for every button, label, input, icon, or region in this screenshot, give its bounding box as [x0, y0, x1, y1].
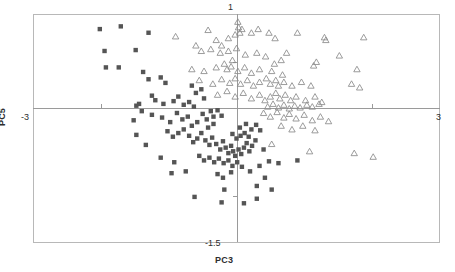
data-point-square [254, 123, 258, 127]
data-point-square [134, 133, 138, 137]
data-point-triangle [370, 154, 376, 160]
data-point-triangle [325, 118, 331, 124]
data-point-square [269, 187, 273, 191]
data-point-square [203, 138, 207, 142]
data-point-square [207, 143, 211, 147]
data-point-triangle [271, 61, 277, 67]
data-point-square [242, 131, 246, 135]
data-point-triangle [348, 81, 354, 87]
y-axis-tick-label-max: 1 [228, 2, 233, 12]
data-point-square [247, 149, 251, 153]
data-point-triangle [356, 84, 362, 90]
data-point-square [261, 147, 265, 151]
data-point-square [218, 147, 222, 151]
data-point-triangle [189, 66, 195, 72]
data-point-triangle [221, 61, 227, 67]
data-point-triangle [256, 79, 262, 85]
data-point-square [217, 156, 221, 160]
data-point-square [238, 125, 242, 129]
data-point-triangle [255, 26, 261, 32]
data-point-square [238, 134, 242, 138]
data-point-triangle [273, 77, 279, 83]
data-point-triangle [289, 83, 295, 89]
data-point-triangle [281, 79, 287, 85]
data-point-triangle [277, 95, 283, 101]
data-point-square [153, 98, 157, 102]
data-point-square [276, 161, 280, 165]
data-point-square [194, 91, 198, 95]
data-point-triangle [336, 53, 342, 59]
data-point-square [104, 65, 108, 69]
data-point-square [219, 114, 223, 118]
data-point-triangle [233, 45, 239, 51]
data-point-square [229, 170, 233, 174]
data-point-triangle [266, 30, 272, 36]
data-point-triangle [213, 64, 219, 70]
data-point-triangle [354, 66, 360, 72]
data-point-triangle [281, 102, 287, 108]
x-axis-tick-label-max: 3 [436, 112, 441, 122]
x-axis-tick-label-min: -3 [21, 112, 29, 122]
data-point-square [226, 158, 230, 162]
data-point-square [210, 135, 214, 139]
data-point-square [242, 201, 246, 205]
data-point-square [171, 135, 175, 139]
data-point-triangle [250, 83, 256, 89]
data-point-triangle [237, 81, 243, 87]
data-point-triangle [270, 101, 276, 107]
data-point-square [98, 27, 102, 31]
data-point-triangle [294, 30, 300, 36]
data-point-square [140, 109, 144, 113]
data-point-square [219, 200, 223, 204]
data-point-square [211, 114, 215, 118]
data-point-square [234, 136, 238, 140]
data-point-square [159, 75, 163, 79]
data-point-square [168, 120, 172, 124]
data-point-triangle [244, 77, 250, 83]
data-point-square [180, 117, 184, 121]
data-point-square [102, 49, 106, 53]
data-point-triangle [298, 79, 304, 85]
data-point-triangle [278, 123, 284, 129]
data-point-square [250, 144, 254, 148]
data-point-triangle [256, 66, 262, 72]
data-point-square [229, 144, 233, 148]
data-point-triangle [229, 57, 235, 63]
data-point-triangle [268, 68, 274, 74]
data-point-square [171, 99, 175, 103]
data-point-square [223, 145, 227, 149]
data-point-square [211, 122, 215, 126]
data-point-square [176, 131, 180, 135]
data-point-square [267, 159, 271, 163]
data-point-triangle [208, 46, 214, 52]
data-point-square [134, 104, 138, 108]
data-point-square [206, 125, 210, 129]
data-point-square [258, 128, 262, 132]
data-point-square [207, 155, 211, 159]
data-point-square [233, 154, 237, 158]
data-point-square [215, 172, 219, 176]
plot-canvas [0, 0, 455, 272]
data-point-square [221, 161, 225, 165]
data-point-square [199, 131, 203, 135]
data-point-triangle [172, 33, 178, 39]
data-point-triangle [262, 97, 268, 103]
data-point-triangle [275, 83, 281, 89]
data-point-square [202, 158, 206, 162]
data-point-square [141, 70, 145, 74]
data-point-triangle [193, 43, 199, 49]
data-point-square [192, 104, 196, 108]
data-point-square [212, 160, 216, 164]
data-point-square [205, 117, 209, 121]
data-point-triangle [312, 94, 318, 100]
data-point-square [246, 135, 250, 139]
data-point-triangle [313, 59, 319, 65]
data-point-triangle [201, 68, 207, 74]
data-point-square [231, 149, 235, 153]
data-point-triangle [217, 50, 223, 56]
data-point-triangle [291, 103, 297, 109]
data-point-square [197, 154, 201, 158]
data-point-triangle [248, 95, 254, 101]
data-point-square [199, 87, 203, 91]
data-point-square [160, 115, 164, 119]
